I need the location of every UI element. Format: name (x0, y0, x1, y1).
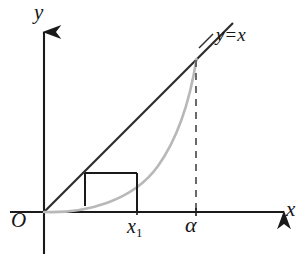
diagram-canvas (0, 0, 305, 254)
x-axis-label: x (286, 199, 295, 220)
y-axis-label: y (34, 2, 43, 23)
identity-line (44, 23, 233, 212)
identity-line-equation-label: y=x (216, 25, 246, 44)
cobweb-diagram: y x O x1 α y=x (0, 0, 305, 254)
x1-base: x (127, 215, 136, 237)
identity-rhs: x (237, 24, 245, 45)
alpha-point-label: α (185, 214, 197, 236)
x1-subscript: 1 (136, 225, 143, 240)
identity-equals-sign: = (225, 24, 236, 45)
x1-point-label: x1 (127, 216, 143, 239)
origin-label: O (11, 210, 26, 231)
identity-lhs: y (216, 24, 224, 45)
